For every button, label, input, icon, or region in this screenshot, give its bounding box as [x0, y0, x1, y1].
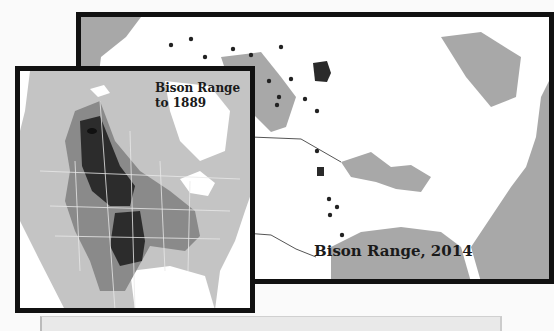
map-1889-frame: Bison Range to 1889 — [15, 66, 255, 313]
map-2014-title: Bison Range, 2014 — [314, 242, 473, 260]
map-1889 — [20, 71, 252, 310]
map-1889-title-line2: to 1889 — [155, 96, 206, 110]
bottom-panel — [40, 316, 502, 331]
map-1889-title-line1: Bison Range — [155, 81, 240, 95]
